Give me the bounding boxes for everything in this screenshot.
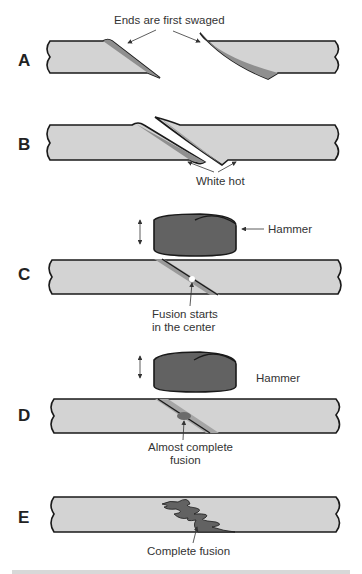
truncated-caption [12, 570, 350, 574]
panel-label-a: A [18, 51, 30, 70]
annotation-swaged: Ends are first swaged [114, 14, 225, 26]
annotation-hammer-d: Hammer [256, 372, 300, 384]
panel-label-c: C [18, 265, 30, 284]
rod-d [51, 399, 340, 433]
annotation-almost-complete-2: fusion [170, 454, 201, 466]
forge-weld-diagram: A Ends are first swaged B White hot [0, 0, 362, 574]
panel-a: A Ends are first swaged [18, 14, 339, 79]
panel-label-d: D [18, 406, 30, 425]
panel-d: Hammer D Almost complete fusion [18, 352, 340, 466]
panel-label-e: E [18, 508, 29, 527]
panel-e: E Complete fusion [18, 497, 340, 557]
panel-c: Hammer C Fusion starts in the center [18, 214, 341, 333]
annotation-complete-fusion: Complete fusion [147, 545, 230, 557]
rod-e [51, 497, 340, 532]
rod-c [49, 259, 341, 295]
annotation-hammer-c: Hammer [268, 223, 312, 235]
panel-label-b: B [18, 135, 30, 154]
annotation-white-hot: White hot [196, 175, 245, 187]
panel-b: B White hot [18, 117, 339, 187]
annotation-fusion-starts-1: Fusion starts [152, 308, 218, 320]
rod-right-swaged [200, 33, 339, 79]
annotation-almost-complete-1: Almost complete [148, 441, 233, 453]
rod-left-swaged [47, 40, 160, 79]
hammer-d [154, 352, 236, 392]
hammer-c [154, 214, 236, 256]
annotation-fusion-starts-2: in the center [152, 321, 215, 333]
